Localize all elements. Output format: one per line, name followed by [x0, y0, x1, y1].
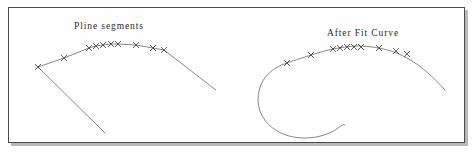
pline-segments-panel [35, 41, 216, 133]
fit-curve-path [258, 46, 445, 138]
fit-vertex-marker-2 [308, 52, 314, 58]
figure-root: Pline segments After Fit Curve [0, 0, 475, 159]
fit-curve-vertex-markers [284, 44, 410, 66]
caption-after-fit-curve: After Fit Curve [327, 28, 399, 38]
fit-vertex-marker-7 [358, 44, 364, 50]
pline-polyline [38, 44, 216, 90]
caption-pline-segments: Pline segments [74, 21, 144, 31]
fit-vertex-marker-1 [284, 60, 290, 66]
vertex-marker-9 [150, 45, 156, 51]
fit-vertex-marker-10 [404, 51, 410, 57]
fit-vertex-marker-6 [351, 44, 357, 50]
vertex-marker-1 [35, 64, 41, 70]
vertex-marker-10 [161, 47, 167, 53]
pline-tail-segment [38, 67, 105, 133]
vertex-marker-2 [61, 55, 67, 61]
after-fit-curve-panel [258, 44, 445, 138]
figure-drawing [0, 0, 475, 159]
vertex-marker-3 [86, 45, 92, 51]
